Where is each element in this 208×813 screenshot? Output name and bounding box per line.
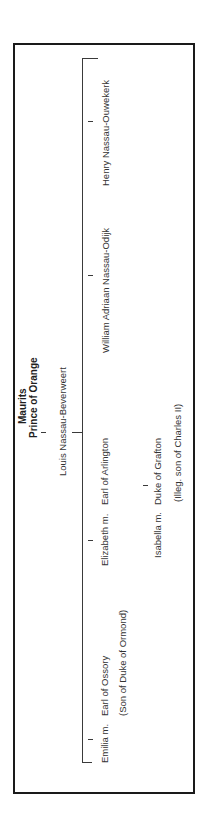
great-grandchild-isabella: Isabella m. (153, 512, 163, 558)
child-name: Louis Nassau-Beverweert (58, 367, 68, 476)
child-connector-tick (72, 432, 82, 433)
root-title: Prince of Orange (29, 357, 39, 438)
isabella-spouse: Duke of Grafton (153, 438, 163, 505)
henry-tick (88, 121, 93, 122)
emilia-spouse: Earl of Ossory (100, 656, 110, 716)
elizabeth-spouse: Earl of Arlington (100, 438, 110, 505)
grandchild-william: William Adriaan Nassau-Odijk (101, 228, 111, 353)
isabella-spouse-note: (Illeg. son of Charles II) (173, 404, 183, 502)
elizabeth-tick (88, 540, 93, 541)
sibling-bar-top-cap (82, 58, 98, 59)
emilia-spouse-note: (Son of Duke of Ormond) (118, 610, 128, 716)
root-connector-tick (41, 432, 46, 433)
root-name: Maurits (18, 388, 28, 424)
sibling-bar-bottom-cap (82, 762, 92, 763)
william-tick (88, 275, 93, 276)
emilia-tick (88, 739, 93, 740)
grandchild-henry: Henry Nassau-Ouwekerk (101, 80, 111, 186)
grandchild-emilia: Emilia m. (100, 724, 110, 763)
grandchild-elizabeth: Elizabeth m. (100, 514, 110, 566)
sibling-bar (82, 58, 83, 763)
isabella-tick (143, 485, 148, 486)
